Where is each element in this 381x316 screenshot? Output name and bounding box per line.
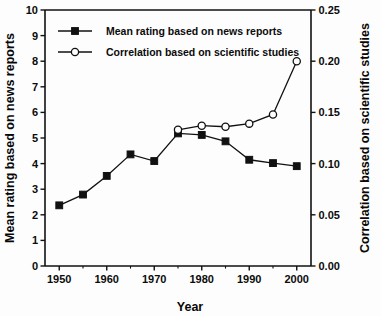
data-point-circle — [222, 123, 229, 130]
data-point-square — [293, 163, 300, 170]
y-tick-label: 1 — [32, 234, 38, 246]
y-tick-label: 2 — [32, 209, 38, 221]
data-point-circle — [174, 126, 181, 133]
legend-label-1: Correlation based on scientific studies — [106, 46, 299, 58]
data-point-circle — [246, 120, 253, 127]
x-tick-label: 1960 — [95, 273, 119, 285]
y2-axis-title: Correlation based on scientific studies — [358, 23, 372, 253]
x-tick-label: 2000 — [285, 273, 309, 285]
y2-tick-label: 0.10 — [319, 158, 340, 170]
data-point-square — [127, 151, 134, 158]
chart-figure: 012345678910 0.000.050.100.150.200.25 19… — [0, 0, 381, 316]
y-tick-label: 10 — [26, 4, 38, 16]
y-tick-label: 8 — [32, 55, 38, 67]
y2-tick-label: 0.20 — [319, 55, 340, 67]
data-point-square — [103, 172, 110, 179]
data-point-square — [56, 202, 63, 209]
y2-tick-label: 0.15 — [319, 106, 340, 118]
legend-square-icon — [72, 28, 79, 35]
x-tick-label: 1970 — [142, 273, 166, 285]
data-point-square — [80, 191, 87, 198]
dual-axis-line-chart: 012345678910 0.000.050.100.150.200.25 19… — [0, 0, 381, 316]
y2-tick-label: 0.00 — [319, 260, 340, 272]
data-point-square — [222, 138, 229, 145]
x-tick-label: 1950 — [47, 273, 71, 285]
data-point-square — [198, 132, 205, 139]
y-tick-label: 4 — [32, 158, 39, 170]
y-tick-label: 6 — [32, 106, 38, 118]
data-point-circle — [293, 58, 300, 65]
y-tick-label: 7 — [32, 81, 38, 93]
y-tick-label: 9 — [32, 30, 38, 42]
data-point-circle — [198, 122, 205, 129]
legend-circle-icon — [71, 48, 78, 55]
x-tick-label: 1990 — [237, 273, 261, 285]
data-point-square — [246, 156, 253, 163]
x-axis-title: Year — [177, 300, 204, 314]
y-tick-label: 5 — [32, 132, 38, 144]
y-tick-label: 3 — [32, 183, 38, 195]
y-tick-label: 0 — [32, 260, 38, 272]
y-axis-title: Mean rating based on news reports — [3, 33, 17, 243]
legend-label-0: Mean rating based on news reports — [106, 25, 282, 37]
data-point-square — [151, 158, 158, 165]
y2-tick-label: 0.05 — [319, 209, 340, 221]
data-point-square — [270, 160, 277, 167]
y2-tick-label: 0.25 — [319, 4, 340, 16]
data-point-circle — [269, 111, 276, 118]
x-tick-label: 1980 — [190, 273, 214, 285]
